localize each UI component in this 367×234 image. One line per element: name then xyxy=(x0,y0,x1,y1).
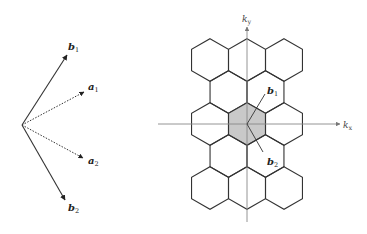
diagram-canvas: b1a1a2b2 kxky b1b2 xyxy=(0,0,367,234)
kx-axis-label: kx xyxy=(343,120,352,132)
ky-axis-label: ky xyxy=(242,14,251,26)
lattice-vectors-figure: b1a1a2b2 xyxy=(22,41,99,215)
vector-b1-arrow xyxy=(22,55,67,125)
vector-a1-label: a1 xyxy=(88,81,99,94)
vector-a2-label: a2 xyxy=(88,155,99,168)
brillouin-zone-hexagon xyxy=(192,39,229,82)
vector-b2-label: b2 xyxy=(68,202,79,215)
brillouin-zone-hexagon xyxy=(266,39,303,82)
reciprocal-b1-label: b1 xyxy=(267,85,278,98)
reciprocal-b2-label: b2 xyxy=(267,156,278,169)
vector-b1-label: b1 xyxy=(68,41,79,54)
brillouin-zone-hexagon xyxy=(266,167,303,210)
brillouin-zone-hexagon xyxy=(192,167,229,210)
vector-a1-arrow xyxy=(22,92,84,125)
